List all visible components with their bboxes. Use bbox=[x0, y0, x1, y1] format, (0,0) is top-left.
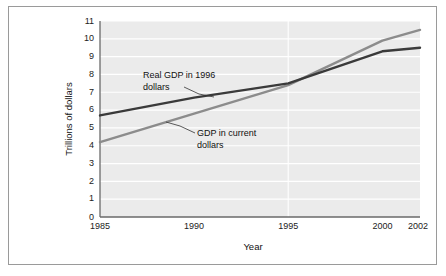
y-tick-9: 9 bbox=[89, 51, 94, 61]
y-tick-1: 1 bbox=[89, 193, 94, 203]
annotation-current-gdp-line1: GDP in current bbox=[197, 128, 257, 138]
y-axis-tick-labels: 0 1 2 3 4 5 6 7 8 9 10 11 bbox=[84, 16, 94, 222]
y-tick-5: 5 bbox=[89, 122, 94, 132]
y-tick-11: 11 bbox=[85, 16, 94, 26]
x-axis-title: Year bbox=[243, 241, 262, 252]
y-tick-6: 6 bbox=[89, 104, 94, 114]
y-tick-4: 4 bbox=[89, 140, 94, 150]
x-axis-tick-labels: 1985 1990 1995 2000 2002 bbox=[90, 221, 428, 231]
annotation-real-gdp-line1: Real GDP in 1996 bbox=[143, 70, 215, 80]
x-tick-1990: 1990 bbox=[184, 221, 204, 231]
x-tick-1985: 1985 bbox=[90, 221, 110, 231]
y-axis-title: Trillions of dollars bbox=[63, 82, 74, 156]
x-tick-1995: 1995 bbox=[278, 221, 298, 231]
y-tick-7: 7 bbox=[89, 87, 94, 97]
y-tick-2: 2 bbox=[89, 176, 94, 186]
y-tick-8: 8 bbox=[89, 69, 94, 79]
annotation-real-gdp-line2: dollars bbox=[143, 82, 170, 92]
annotation-current-gdp-line2: dollars bbox=[197, 140, 224, 150]
figure-container: Real GDP in 1996 dollars GDP in current … bbox=[0, 0, 446, 276]
plot-area-background bbox=[100, 21, 420, 217]
y-tick-3: 3 bbox=[89, 158, 94, 168]
y-tick-10: 10 bbox=[84, 33, 94, 43]
x-tick-2002: 2002 bbox=[408, 221, 428, 231]
gdp-line-chart: Real GDP in 1996 dollars GDP in current … bbox=[0, 0, 446, 276]
x-tick-2000: 2000 bbox=[372, 221, 392, 231]
